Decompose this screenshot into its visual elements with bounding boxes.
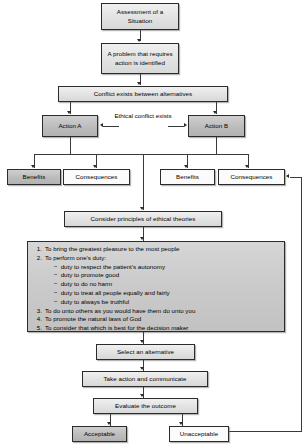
node-select-an-alternative: Select an alternative: [96, 344, 195, 360]
principle-subitem-text: duty to always be truthful: [61, 298, 129, 307]
principle-number: 5.: [33, 324, 45, 333]
arrowhead-down-benefits-b: [184, 165, 188, 168]
connector-action-b-down: [216, 137, 217, 154]
principle-subitem: − duty to do no harm: [33, 280, 280, 289]
arrowhead-down-select: [140, 340, 144, 343]
dash-bullet-icon: −: [54, 289, 61, 298]
feedback-line-right: [301, 177, 302, 431]
principle-subitem: − duty to respect the patient's autonomy: [33, 263, 280, 272]
node-assessment-of-a-situation: Assessment of a Situation: [101, 3, 179, 30]
arrowhead-down-unacceptable: [179, 422, 183, 425]
principle-subitem: − duty to always be truthful: [33, 298, 280, 307]
node-conflict-exists-between-alternatives: Conflict exists between alternatives: [58, 86, 228, 102]
arrowhead-down-take-action: [140, 367, 144, 370]
arrowhead-left-action-a: [100, 123, 103, 127]
principle-item: 3. To do unto others as you would have t…: [33, 307, 280, 316]
arrowhead-down-action-a: [67, 111, 71, 114]
arrowhead-down-problem: [137, 39, 141, 42]
principle-number: 1.: [33, 245, 45, 254]
dash-bullet-icon: −: [54, 271, 61, 280]
connector-bus-to-consider: [143, 154, 144, 210]
arrowhead-down-consequences-a: [93, 165, 97, 168]
arrowhead-down-conflict: [137, 82, 141, 85]
node-unacceptable: Unacceptable: [169, 426, 229, 442]
arrowhead-down-acceptable: [107, 422, 111, 425]
node-problem-requires-action: A problem that requires action is identi…: [101, 43, 179, 74]
node-consider-principles: Consider principles of ethical theories: [64, 211, 222, 227]
connector-branch-bus: [34, 154, 248, 155]
principle-text: To perform one's duty:: [45, 254, 106, 263]
dash-bullet-icon: −: [54, 298, 61, 307]
dash-bullet-icon: −: [54, 263, 61, 272]
principle-item: 1. To bring the greatest pleasure to the…: [33, 245, 280, 254]
principle-text: To bring the greatest pleasure to the mo…: [45, 245, 180, 254]
principle-item: 2. To perform one's duty:: [33, 254, 280, 263]
principle-number: 2.: [33, 254, 45, 263]
arrowhead-left-consequences-b: [286, 174, 289, 178]
node-benefits-b: Benefits: [160, 169, 215, 185]
arrowhead-down-evaluate: [140, 394, 144, 397]
arrowhead-down-benefits-a: [31, 165, 35, 168]
arrowhead-down-consequences-b: [245, 165, 249, 168]
node-action-a: Action A: [42, 115, 98, 137]
annotation-ethical-conflict-exists: Ethical conflict exists: [113, 112, 173, 120]
principle-subitem-text: duty to do no harm: [61, 280, 113, 289]
arrowhead-right-action-b: [184, 123, 187, 127]
node-consequences-b: Consequences: [218, 169, 285, 185]
node-benefits-a: Benefits: [7, 169, 61, 185]
principle-text: To do unto others as you would have them…: [45, 307, 195, 316]
feedback-line-bottom: [228, 431, 302, 432]
principle-text: To consider that which is best for the d…: [45, 324, 188, 333]
principle-subitem: − duty to treat all people equally and f…: [33, 289, 280, 298]
node-action-b: Action B: [188, 115, 245, 137]
arrowhead-down-action-b: [213, 111, 217, 114]
arrowhead-down-consider: [140, 207, 144, 210]
principle-subitem-text: duty to promote good: [61, 271, 119, 280]
principle-text: To promote the natural laws of God: [45, 315, 141, 324]
node-acceptable: Acceptable: [72, 426, 127, 442]
node-evaluate-the-outcome: Evaluate the outcome: [93, 398, 198, 414]
arrowhead-down-principles: [140, 237, 144, 240]
node-consequences-a: Consequences: [63, 169, 130, 185]
flowchart-canvas: Assessment of a Situation A problem that…: [0, 0, 306, 448]
principle-number: 3.: [33, 307, 45, 316]
connector-action-a-down: [70, 137, 71, 154]
node-take-action-and-communicate: Take action and communicate: [82, 371, 208, 387]
principle-item: 4. To promote the natural laws of God: [33, 315, 280, 324]
principle-number: 4.: [33, 315, 45, 324]
principle-item: 5. To consider that which is best for th…: [33, 324, 280, 333]
panel-ethical-principles: 1. To bring the greatest pleasure to the…: [27, 241, 285, 332]
connector-ethical-to-action-b: [168, 126, 184, 127]
principle-subitem-text: duty to respect the patient's autonomy: [61, 263, 165, 272]
dash-bullet-icon: −: [54, 280, 61, 289]
principle-subitem: − duty to promote good: [33, 271, 280, 280]
connector-ethical-to-action-a: [103, 126, 119, 127]
principle-subitem-text: duty to treat all people equally and fai…: [61, 289, 170, 298]
